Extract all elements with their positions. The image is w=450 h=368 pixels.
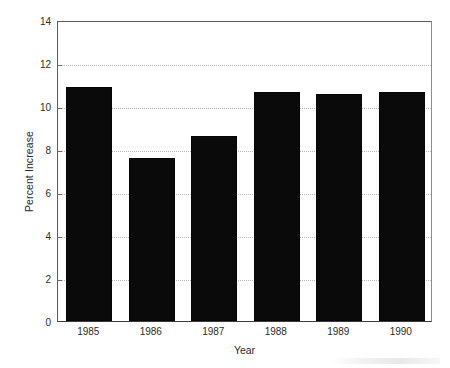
bar [316, 94, 362, 321]
bar-chart-figure: Percent Increase 02468101214 19851986198… [0, 0, 450, 368]
bar [66, 87, 112, 321]
y-tick-mark [58, 65, 62, 66]
y-tick-mark [58, 280, 62, 281]
y-tick-label: 14 [34, 16, 51, 27]
y-tick-label: 2 [34, 274, 51, 285]
bar [379, 92, 425, 321]
y-tick-label: 8 [34, 145, 51, 156]
y-tick-label: 12 [34, 59, 51, 70]
bar [254, 92, 300, 321]
bar [191, 136, 237, 321]
y-tick-mark [58, 108, 62, 109]
y-tick-label: 4 [34, 231, 51, 242]
gridline [58, 237, 431, 238]
x-tick-label: 1988 [265, 326, 287, 337]
y-tick-mark [58, 151, 62, 152]
x-tick-label: 1987 [202, 326, 224, 337]
x-tick-label: 1985 [77, 326, 99, 337]
bar [129, 158, 175, 321]
y-tick-mark [58, 194, 62, 195]
plot-area [57, 21, 432, 322]
x-tick-label: 1989 [327, 326, 349, 337]
x-axis-tick-labels: 198519861987198819891990 [57, 326, 432, 340]
gridline [58, 194, 431, 195]
y-axis-tick-labels: 02468101214 [34, 21, 51, 322]
scan-artifact [330, 358, 440, 364]
gridline [58, 280, 431, 281]
y-tick-label: 6 [34, 188, 51, 199]
x-tick-label: 1990 [390, 326, 412, 337]
x-axis-title: Year [57, 344, 432, 356]
gridline [58, 65, 431, 66]
x-tick-label: 1986 [140, 326, 162, 337]
y-tick-label: 10 [34, 102, 51, 113]
y-tick-label: 0 [34, 317, 51, 328]
y-tick-mark [58, 237, 62, 238]
gridline [58, 151, 431, 152]
gridline [58, 108, 431, 109]
